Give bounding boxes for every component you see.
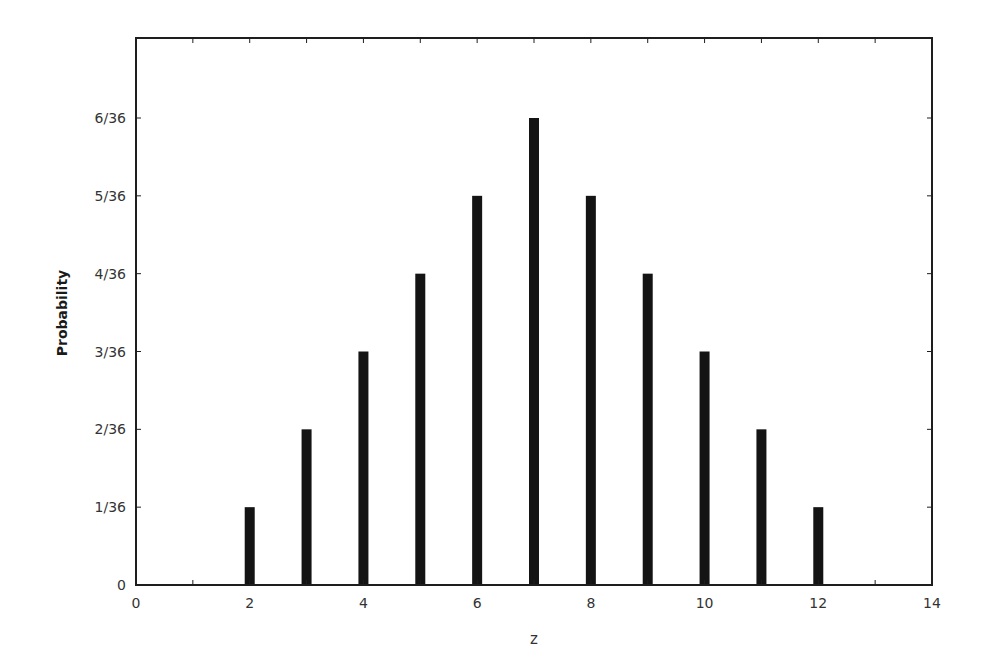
y-tick-label: 0 [117, 577, 126, 593]
bars-group [245, 118, 824, 585]
chart: 02468101214 01/362/363/364/365/366/36 z … [0, 0, 984, 667]
x-axis-label: z [530, 630, 538, 648]
x-tick-label: 0 [132, 595, 141, 611]
y-tick-label: 3/36 [95, 344, 127, 360]
x-tick-label: 2 [245, 595, 254, 611]
bar-z-8 [586, 196, 596, 585]
bar-z-4 [358, 352, 368, 586]
y-tick-label: 2/36 [95, 421, 127, 437]
x-tick-label: 12 [809, 595, 827, 611]
bar-z-10 [700, 352, 710, 586]
bar-z-12 [813, 507, 823, 585]
y-tick-label: 5/36 [95, 188, 127, 204]
probability-bar-chart: 02468101214 01/362/363/364/365/366/36 z … [0, 0, 984, 667]
bar-z-9 [643, 274, 653, 585]
bar-z-5 [415, 274, 425, 585]
bar-z-7 [529, 118, 539, 585]
x-tick-label: 10 [696, 595, 714, 611]
bar-z-3 [302, 429, 312, 585]
x-tick-label: 6 [473, 595, 482, 611]
x-tick-labels: 02468101214 [132, 595, 941, 611]
y-tick-labels: 01/362/363/364/365/366/36 [95, 110, 127, 593]
x-tick-label: 8 [586, 595, 595, 611]
y-tick-label: 1/36 [95, 499, 127, 515]
x-tick-label: 4 [359, 595, 368, 611]
y-tick-label: 6/36 [95, 110, 127, 126]
x-tick-label: 14 [923, 595, 941, 611]
y-tick-label: 4/36 [95, 266, 127, 282]
bar-z-6 [472, 196, 482, 585]
y-axis-label: Probability [54, 270, 70, 357]
bar-z-2 [245, 507, 255, 585]
bar-z-11 [756, 429, 766, 585]
